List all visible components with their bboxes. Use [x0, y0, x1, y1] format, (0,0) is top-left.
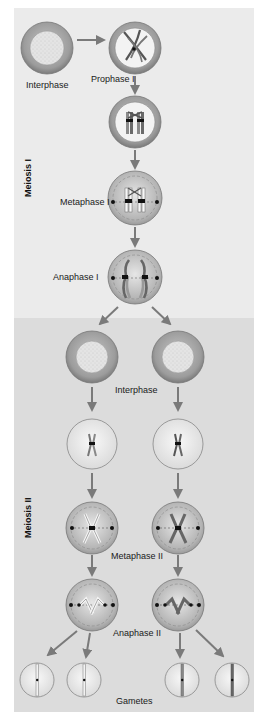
gamete-3 [165, 663, 199, 697]
tetrad-cell [109, 96, 161, 148]
gamete-1 [20, 663, 54, 697]
prophase2-cell-right [153, 419, 203, 469]
interphase2-cell-right [152, 331, 204, 383]
metaphase2-cell-right [152, 502, 204, 554]
meiosis-diagram: Meiosis I Meiosis II Interphase Prophase… [0, 0, 263, 720]
metaphase1-label: Metaphase I [60, 197, 110, 207]
prophase1-cell [109, 22, 161, 74]
metaphase1-cell [108, 171, 162, 225]
interphase-cell [21, 22, 73, 74]
anaphase1-label: Anaphase I [53, 272, 99, 282]
anaphase1-cell [108, 250, 162, 304]
meiosis2-label: Meiosis II [23, 497, 33, 538]
gamete-2 [67, 663, 101, 697]
anaphase2-cell-right [152, 579, 204, 631]
anaphase2-label: Anaphase II [113, 628, 161, 638]
interphase-label: Interphase [26, 80, 69, 90]
metaphase2-label: Metaphase II [111, 551, 163, 561]
prophase2-cell-left [67, 419, 117, 469]
metaphase2-cell-left [66, 502, 118, 554]
prophase1-label: Prophase I [91, 74, 135, 84]
anaphase2-cell-left [66, 579, 118, 631]
gamete-4 [215, 663, 249, 697]
meiosis1-label: Meiosis I [23, 159, 33, 197]
gametes-label: Gametes [116, 696, 153, 706]
interphase2-label: Interphase [115, 385, 158, 395]
interphase2-cell-left [66, 331, 118, 383]
